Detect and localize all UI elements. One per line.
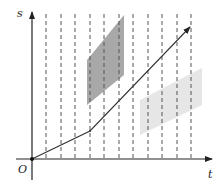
kink-point: [89, 130, 91, 132]
origin-dot: [30, 157, 34, 161]
dark-parallelogram: [87, 15, 124, 105]
origin-label: O: [18, 163, 27, 176]
t-axis-label: t: [208, 168, 213, 181]
light-parallelogram: [140, 68, 202, 135]
s-axis-label: s: [17, 7, 23, 20]
st-diagram: s t O: [0, 0, 220, 187]
